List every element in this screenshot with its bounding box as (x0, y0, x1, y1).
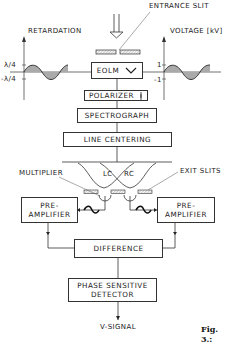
exit-slits-leader (148, 172, 178, 190)
preamplifier-left-line1: PRE- (40, 201, 58, 210)
preamplifier-right-block: PRE- AMPLIFIER (157, 197, 215, 223)
line-centering-label: LINE CENTERING (84, 135, 151, 144)
light-input-arrow-icon (110, 14, 123, 38)
phase-sensitive-detector-block: PHASE SENSITIVE DETECTOR (68, 278, 157, 302)
figure-caption: Fig. 3.: (201, 324, 232, 344)
polarizer-label: POLARIZER (89, 91, 134, 100)
crystal-icon (125, 67, 137, 74)
eolm-label: EOLM (97, 66, 119, 75)
spectrograph-label: SPECTROGRAPH (85, 111, 149, 120)
preamplifier-right-line2: AMPLIFIER (165, 210, 207, 219)
preamplifier-left-line2: AMPLIFIER (29, 210, 71, 219)
entrance-slit-icon (96, 50, 140, 54)
polarizer-axis-icon (139, 92, 143, 100)
difference-label: DIFFERENCE (94, 244, 144, 253)
voltage-label: VOLTAGE [kV] (170, 28, 223, 35)
voltage-plus-tick: 1 (157, 62, 162, 69)
v-signal-label: V-SIGNAL (100, 324, 136, 331)
eolm-block: EOLM (91, 62, 143, 79)
entrance-slit-label: ENTRANCE SLIT (149, 3, 209, 10)
multiplier-right-icon (124, 195, 136, 210)
psd-line1: PHASE SENSITIVE (77, 281, 148, 290)
rc-label: RC (124, 171, 134, 178)
difference-block: DIFFERENCE (74, 239, 163, 258)
retardation-plus-tick: λ/4 (4, 62, 16, 69)
multiplier-label: MULTIPLIER (19, 170, 63, 177)
multiplier-leader (59, 177, 100, 196)
multiplier-left-icon (99, 195, 111, 210)
entrance-slit-leader (119, 12, 150, 50)
signal-left-waveform (77, 206, 105, 213)
psd-line2: DETECTOR (91, 290, 134, 299)
polarizer-block: POLARIZER (84, 90, 148, 101)
retardation-label: RETARDATION (28, 28, 82, 35)
spectrograph-block: SPECTROGRAPH (77, 108, 157, 123)
retardation-plot (10, 36, 91, 100)
voltage-plot (143, 36, 221, 100)
lc-label: LC (103, 171, 113, 178)
lc-rc-profile-curves (78, 163, 156, 188)
signal-right-waveform (130, 206, 157, 213)
preamplifier-left-block: PRE- AMPLIFIER (21, 197, 78, 223)
voltage-minus-tick: -1 (154, 77, 162, 84)
preamplifier-right-line1: PRE- (177, 201, 195, 210)
exit-slits-label: EXIT SLITS (180, 168, 221, 175)
exit-slits-icon (84, 190, 152, 194)
line-centering-block: LINE CENTERING (63, 132, 172, 147)
output-arrow-icon (116, 316, 120, 320)
retardation-minus-tick: -λ/4 (1, 76, 16, 83)
